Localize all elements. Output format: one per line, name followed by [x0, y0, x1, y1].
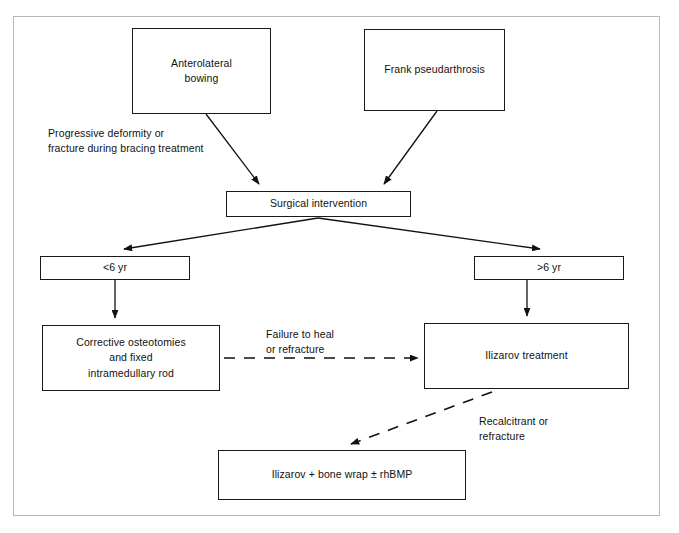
node-corrective-osteotomies-label: Corrective osteotomies and fixed intrame… [76, 335, 186, 381]
edge-pseudarthrosis-to-surgery [384, 111, 437, 184]
edge-ilizarov-to-bonewrap-dashed [351, 392, 492, 444]
node-anterolateral-bowing-label: Anterolateral bowing [171, 56, 232, 86]
node-ilizarov-treatment[interactable]: Ilizarov treatment [424, 323, 629, 389]
node-over-6-yr-label: >6 yr [537, 260, 561, 275]
node-surgical-intervention-label: Surgical intervention [270, 196, 367, 211]
flowchart-figure: Anterolateral bowing Frank pseudarthrosi… [0, 0, 679, 533]
node-frank-pseudarthrosis[interactable]: Frank pseudarthrosis [364, 29, 505, 111]
edge-surgery-to-over6 [318, 218, 540, 249]
node-ilizarov-bone-wrap[interactable]: Ilizarov + bone wrap ± rhBMP [218, 450, 466, 500]
edge-label-recalcitrant: Recalcitrant or refracture [479, 414, 548, 444]
node-under-6-yr-label: <6 yr [103, 260, 127, 275]
edge-label-failure-to-heal: Failure to heal or refracture [266, 327, 334, 357]
node-ilizarov-bone-wrap-label: Ilizarov + bone wrap ± rhBMP [272, 467, 413, 482]
node-frank-pseudarthrosis-label: Frank pseudarthrosis [384, 62, 485, 77]
node-anterolateral-bowing[interactable]: Anterolateral bowing [132, 28, 271, 114]
node-under-6-yr[interactable]: <6 yr [40, 256, 190, 280]
node-surgical-intervention[interactable]: Surgical intervention [226, 191, 411, 217]
node-corrective-osteotomies[interactable]: Corrective osteotomies and fixed intrame… [42, 325, 220, 391]
node-over-6-yr[interactable]: >6 yr [474, 256, 624, 280]
edge-bowing-to-surgery [206, 114, 259, 184]
edge-surgery-to-under6 [124, 218, 318, 249]
node-ilizarov-treatment-label: Ilizarov treatment [485, 348, 567, 363]
edge-label-progressive-deformity: Progressive deformity or fracture during… [48, 126, 204, 156]
